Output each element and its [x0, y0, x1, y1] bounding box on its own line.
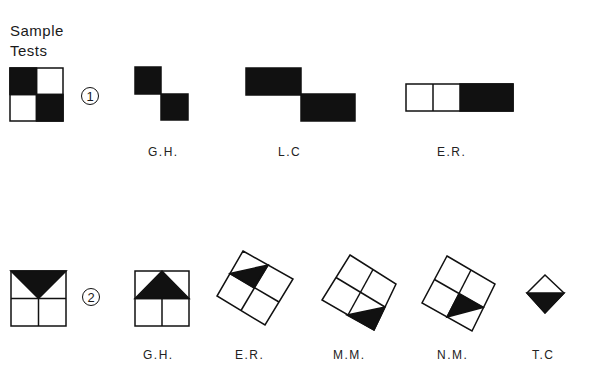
test2-label-nm: N.M. — [437, 348, 468, 362]
test2-label-mm: M.M. — [333, 348, 366, 362]
test2-label-er: E.R. — [235, 348, 264, 362]
test2-tc-figure — [527, 275, 564, 313]
sample-1-checkerboard — [10, 68, 63, 121]
test1-gh-figure — [135, 67, 188, 120]
test-number-1: 1 — [81, 87, 99, 105]
sample-2-grid — [11, 271, 66, 326]
test2-er-figure — [217, 251, 293, 325]
test2-mm-figure — [322, 255, 396, 330]
test-number-2: 2 — [82, 288, 100, 306]
test2-nm-figure — [422, 256, 495, 331]
figure-canvas — [0, 0, 595, 390]
test1-label-gh: G.H. — [148, 145, 179, 159]
test2-label-gh: G.H. — [143, 348, 174, 362]
test1-lc-figure — [246, 68, 355, 121]
test1-label-er: E.R. — [437, 145, 466, 159]
test1-label-lc: L.C — [278, 145, 301, 159]
test1-er-figure — [406, 84, 513, 111]
test2-label-tc: T.C — [532, 348, 555, 362]
test2-gh-figure — [135, 271, 189, 326]
